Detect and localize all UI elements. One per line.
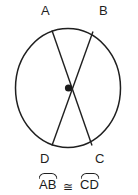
circle-diagram-svg bbox=[0, 0, 138, 195]
arc-cd-text: CD bbox=[80, 178, 99, 191]
congruent-symbol: ≅ bbox=[60, 181, 76, 193]
center-dot bbox=[65, 84, 72, 91]
arc-congruence-caption: AB ≅ CD bbox=[0, 173, 138, 191]
point-label-d: D bbox=[40, 152, 49, 165]
geometry-figure: A B C D AB ≅ CD bbox=[0, 0, 138, 195]
arc-ab-text: AB bbox=[39, 178, 57, 191]
point-label-a: A bbox=[41, 4, 50, 17]
arc-mark-icon-ab bbox=[38, 173, 57, 179]
arc-ab-term: AB bbox=[39, 173, 57, 191]
arc-cd-term: CD bbox=[80, 173, 99, 191]
arc-mark-icon-cd bbox=[80, 173, 99, 179]
point-label-b: B bbox=[99, 4, 108, 17]
point-label-c: C bbox=[95, 152, 104, 165]
